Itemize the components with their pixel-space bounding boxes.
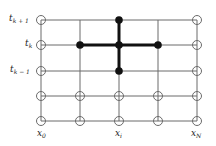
stencil-node-filled-dot [115, 16, 123, 24]
row-label-t-k-minus-1: tk − 1 [10, 65, 30, 75]
row-label-t-k-plus-1: tk + 1 [9, 14, 29, 24]
stencil-node-filled-dot [115, 41, 123, 49]
row-label-t-k: tk [25, 39, 32, 49]
col-label-x-i: xi [115, 129, 122, 139]
col-label-sub: N [196, 132, 201, 139]
col-label-sub: i [120, 132, 122, 139]
stencil-node-filled-dot [115, 67, 123, 75]
row-label-sub: k − 1 [14, 68, 30, 75]
stencil-node-filled-dot [154, 41, 162, 49]
col-label-x-N: xN [191, 129, 201, 139]
stencil-node-filled-dot [76, 41, 84, 49]
col-label-x-0: x0 [37, 129, 46, 139]
finite-difference-grid-diagram: tk + 1 tk tk − 1 x0 xi xN [0, 0, 216, 146]
row-label-sub: k [29, 42, 33, 49]
row-label-sub: k + 1 [13, 17, 29, 24]
col-label-sub: 0 [42, 132, 46, 139]
grid-svg [0, 0, 216, 146]
